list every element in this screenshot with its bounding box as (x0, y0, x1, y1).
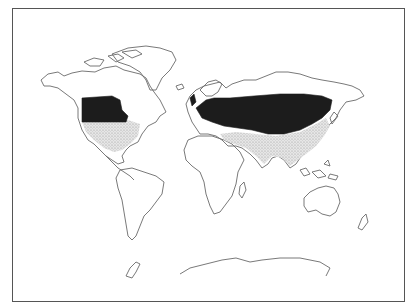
new-zealand-outline (358, 214, 368, 230)
south-america-outline (116, 168, 164, 240)
australia-outline (304, 186, 340, 216)
iceland-outline (176, 84, 184, 90)
greenland-outline (112, 46, 176, 90)
africa-outline (184, 136, 244, 214)
madagascar-outline (239, 182, 246, 198)
world-map (0, 0, 411, 307)
japan-outline (330, 112, 338, 124)
antarctic-peninsula-outline (126, 262, 140, 278)
antarctica-outline (180, 258, 330, 276)
sparse-range-north-america (82, 120, 140, 152)
dense-range-british-isles (190, 94, 196, 106)
dense-range-north-america (82, 96, 128, 122)
arctic-islands-outline (84, 50, 142, 66)
southeast-asia-islands-outline (300, 160, 338, 180)
